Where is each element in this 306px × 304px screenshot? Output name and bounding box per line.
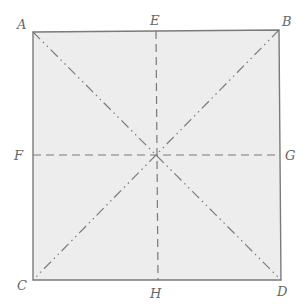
label-B: B [281,14,292,29]
label-A: A [16,17,26,32]
label-G: G [285,148,295,163]
label-F: F [13,148,24,163]
label-D: D [276,284,288,299]
folding-square-diagram: A E B F G C H D [0,0,306,304]
label-C: C [17,278,27,293]
label-H: H [149,286,162,301]
label-E: E [149,13,160,28]
